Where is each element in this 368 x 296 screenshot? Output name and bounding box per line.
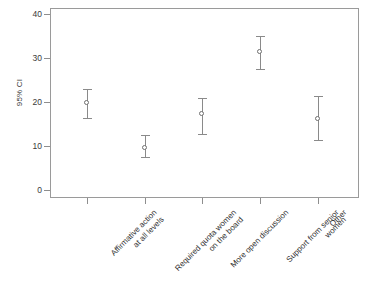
y-tick-label-20: 20 [2, 97, 42, 107]
y-tick-label-0: 0 [2, 185, 42, 195]
data-point-marker [315, 116, 320, 121]
error-bar-chart: 95% CI 0 10 20 30 40 [0, 0, 368, 296]
data-point-marker [142, 145, 147, 150]
data-point-marker [84, 100, 89, 105]
x-tick-mark-4 [318, 198, 319, 204]
x-tick-mark-3 [260, 198, 261, 204]
error-bar-lower-cap [83, 118, 92, 119]
error-bar-upper-cap [314, 96, 323, 97]
error-bar-lower-cap [198, 134, 207, 135]
error-bar-line [202, 98, 203, 134]
x-tick-mark-2 [202, 198, 203, 204]
y-axis-title: 95% CI [15, 58, 24, 128]
x-axis-label-affirmative-action: Affirmative actionat all levels [109, 208, 166, 265]
y-tick-label-10: 10 [2, 141, 42, 151]
error-bar-upper-cap [256, 36, 265, 37]
x-tick-mark-1 [145, 198, 146, 204]
error-bar-upper-cap [141, 135, 150, 136]
error-bar-lower-cap [256, 69, 265, 70]
x-tick-mark-0 [87, 198, 88, 204]
y-tick-label-40: 40 [2, 9, 42, 19]
plot-area [50, 8, 359, 198]
error-bar-upper-cap [83, 89, 92, 90]
error-bar-lower-cap [141, 157, 150, 158]
y-tick-label-30: 30 [2, 53, 42, 63]
data-point-marker [257, 49, 262, 54]
error-bar-lower-cap [314, 140, 323, 141]
error-bar-upper-cap [198, 98, 207, 99]
data-point-marker [199, 111, 204, 116]
